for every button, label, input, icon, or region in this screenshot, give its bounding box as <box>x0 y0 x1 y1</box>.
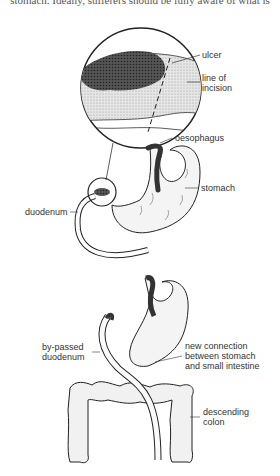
label-descending-colon-1: descending <box>203 407 249 417</box>
label-line-of-incision-2: incision <box>202 83 232 93</box>
colon <box>68 382 193 463</box>
label-duodenum: duodenum <box>25 207 68 217</box>
gastrectomy-diagram: ulcer line of incision oesophagus stomac… <box>0 0 280 476</box>
label-bypassed-duodenum-2: duodenum <box>42 352 85 362</box>
label-new-connection-3: and small intestine <box>185 361 260 371</box>
label-oesophagus: oesophagus <box>175 133 225 143</box>
magnified-inset <box>70 28 215 148</box>
label-bypassed-duodenum-1: by-passed <box>42 342 84 352</box>
label-line-of-incision-1: line of <box>202 73 227 83</box>
label-descending-colon-2: colon <box>203 417 225 427</box>
label-stomach: stomach <box>201 183 235 193</box>
stomach-before <box>112 146 200 233</box>
label-new-connection-2: between stomach <box>185 351 256 361</box>
label-new-connection-1: new connection <box>185 341 248 351</box>
label-ulcer: ulcer <box>202 50 222 60</box>
stomach-after <box>130 277 188 366</box>
